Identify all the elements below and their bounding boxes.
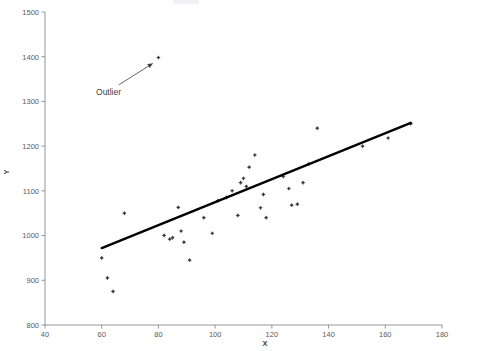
scatter-chart: 800900100011001200130014001500 406080100… (0, 0, 499, 351)
data-point-marker (287, 186, 291, 190)
data-point-marker (315, 126, 319, 130)
data-points (100, 55, 413, 293)
data-point-marker (179, 229, 183, 233)
x-tick-label: 180 (436, 330, 449, 339)
data-point-marker (264, 215, 268, 219)
data-point-marker (247, 165, 251, 169)
trend-line (102, 123, 411, 248)
data-point-marker (210, 231, 214, 235)
x-tick-label: 40 (41, 330, 49, 339)
annotation-arrowhead (147, 63, 153, 68)
y-tick-label: 900 (26, 276, 39, 285)
data-point-marker (230, 189, 234, 193)
x-tick-label: 60 (98, 330, 106, 339)
x-tick-label: 120 (266, 330, 279, 339)
data-point-marker (261, 192, 265, 196)
data-point-marker (238, 181, 242, 185)
x-axis: 406080100120140160180 (41, 325, 448, 339)
data-point-marker (111, 289, 115, 293)
outlier-label: Outlier (96, 87, 121, 97)
annotation-leader-line (119, 63, 153, 84)
data-point-marker (122, 211, 126, 215)
plot-area: 800900100011001200130014001500 406080100… (0, 0, 499, 351)
y-axis: 800900100011001200130014001500 (22, 8, 45, 330)
y-tick-label: 1100 (23, 187, 39, 196)
data-point-marker (100, 256, 104, 260)
data-point-marker (253, 153, 257, 157)
y-tick-label: 1400 (22, 53, 39, 62)
y-axis-title: Y (2, 169, 11, 174)
y-tick-label: 1500 (22, 8, 39, 17)
data-point-marker (290, 203, 294, 207)
x-tick-label: 80 (154, 330, 162, 339)
data-point-marker (241, 176, 245, 180)
x-tick-label: 140 (322, 330, 335, 339)
x-tick-label: 160 (379, 330, 392, 339)
y-tick-label: 1300 (22, 97, 39, 106)
data-point-marker (301, 181, 305, 185)
regression-line (102, 123, 411, 248)
data-point-marker (187, 258, 191, 262)
y-tick-label: 800 (26, 321, 39, 330)
data-point-marker (176, 205, 180, 209)
y-tick-label: 1200 (22, 142, 39, 151)
x-tick-label: 100 (209, 330, 222, 339)
data-point-marker (202, 215, 206, 219)
data-point-marker (258, 206, 262, 210)
data-point-marker (162, 233, 166, 237)
data-point-marker (295, 202, 299, 206)
data-point-marker (156, 55, 160, 59)
data-point-marker (182, 240, 186, 244)
x-axis-title: X (262, 339, 267, 348)
y-tick-label: 1000 (22, 231, 39, 240)
outlier-annotation: Outlier (96, 63, 153, 96)
data-point-marker (360, 144, 364, 148)
data-point-marker (105, 276, 109, 280)
data-point-marker (236, 213, 240, 217)
data-point-marker (386, 136, 390, 140)
